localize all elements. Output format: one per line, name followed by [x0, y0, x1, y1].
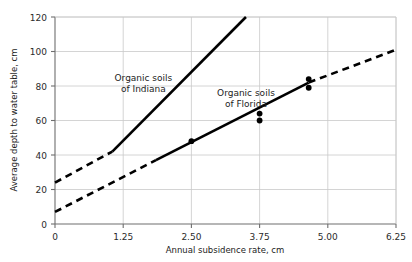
y-tick-label: 60: [36, 116, 48, 126]
x-tick-label: 5.00: [318, 232, 338, 242]
data-point: [306, 85, 312, 91]
x-tick-label: 0: [52, 232, 58, 242]
x-tick-label: 6.25: [386, 232, 406, 242]
x-tick-label: 2.50: [181, 232, 201, 242]
data-point: [306, 76, 312, 82]
y-tick-label: 100: [30, 47, 47, 57]
annotation-line-1: Organic soils: [217, 88, 275, 98]
y-tick-label: 80: [36, 82, 48, 92]
y-tick-label: 20: [36, 185, 48, 195]
chart-figure: 01.252.503.755.006.25 020406080100120 Or…: [0, 0, 412, 262]
x-tick-label: 3.75: [250, 232, 270, 242]
y-axis-tick-labels: 020406080100120: [30, 13, 47, 230]
annotation-line-1: Organic soils: [115, 73, 173, 83]
y-tick-label: 120: [30, 13, 47, 23]
x-axis-tick-labels: 01.252.503.755.006.25: [52, 232, 406, 242]
annotation-florida: Organic soilsof Florida: [217, 88, 275, 109]
data-point: [189, 138, 195, 144]
annotation-indiana: Organic soilsof Indiana: [115, 73, 173, 94]
y-tick-label: 0: [41, 220, 47, 230]
annotation-line-2: of Indiana: [121, 84, 166, 94]
data-point: [257, 118, 263, 124]
x-axis-title: Annual subsidence rate, cm: [166, 245, 285, 255]
y-axis-title: Average depth to water table, cm: [9, 48, 19, 191]
annotation-line-2: of Florida: [225, 99, 267, 109]
x-tick-label: 1.25: [113, 232, 133, 242]
data-point: [257, 111, 263, 117]
y-tick-label: 40: [36, 151, 48, 161]
subsidence-water-table-chart: 01.252.503.755.006.25 020406080100120 Or…: [0, 0, 412, 262]
